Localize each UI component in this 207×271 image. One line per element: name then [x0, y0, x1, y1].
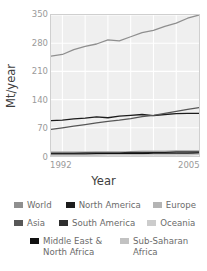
- line-chart-figure: Mt/year 350280210140700 1992 2005 Year W…: [0, 0, 207, 271]
- y-axis-title-text: Mt/year: [4, 64, 18, 108]
- legend-item[interactable]: Oceania: [147, 218, 195, 229]
- legend-swatch: [14, 220, 23, 226]
- legend-label: Sub-Saharan Africa: [133, 236, 188, 257]
- legend-label: Middle East & North Africa: [43, 236, 102, 257]
- legend-label: North America: [79, 200, 141, 211]
- legend-swatch: [59, 220, 68, 226]
- legend-item[interactable]: Sub-Saharan Africa: [120, 236, 188, 257]
- chart-legend: WorldNorth AmericaEuropeAsiaSouth Americ…: [0, 196, 207, 271]
- y-axis-tick-label: 140: [24, 96, 48, 104]
- legend-swatch: [30, 238, 39, 244]
- legend-row: WorldNorth AmericaEurope: [0, 200, 207, 211]
- series-line: [51, 15, 199, 56]
- legend-swatch: [153, 202, 162, 208]
- legend-item[interactable]: South America: [59, 218, 135, 229]
- y-axis-tick-label: 350: [24, 10, 48, 18]
- y-axis-title: Mt/year: [4, 40, 18, 132]
- legend-item[interactable]: North America: [66, 200, 141, 211]
- legend-item[interactable]: Asia: [14, 218, 45, 229]
- legend-label: South America: [72, 218, 135, 229]
- y-axis-tick-label: 70: [24, 124, 48, 132]
- y-axis-tick-labels: 350280210140700: [18, 0, 48, 160]
- legend-item[interactable]: Europe: [153, 200, 196, 211]
- legend-item[interactable]: Middle East & North Africa: [30, 236, 102, 257]
- y-axis-tick-label: 0: [24, 153, 48, 161]
- y-axis-tick-label: 210: [24, 67, 48, 75]
- legend-swatch: [14, 202, 23, 208]
- plot-area: [50, 14, 200, 157]
- y-axis-tick-label: 280: [24, 39, 48, 47]
- x-axis-title: Year: [0, 174, 207, 188]
- legend-swatch: [66, 202, 75, 208]
- legend-label: Europe: [166, 200, 196, 211]
- legend-label: Asia: [27, 218, 45, 229]
- legend-swatch: [147, 220, 156, 226]
- legend-item[interactable]: World: [14, 200, 52, 211]
- x-axis-tick-end: 2005: [178, 160, 200, 170]
- legend-row: Middle East & North AfricaSub-Saharan Af…: [0, 236, 207, 257]
- x-axis-tick-start: 1992: [50, 160, 72, 170]
- legend-row: AsiaSouth AmericaOceania: [0, 218, 207, 229]
- plot-svg: [51, 15, 199, 156]
- legend-swatch: [120, 238, 129, 244]
- legend-label: Oceania: [160, 218, 195, 229]
- plot-block: Mt/year 350280210140700 1992 2005 Year: [0, 0, 207, 196]
- legend-label: World: [27, 200, 52, 211]
